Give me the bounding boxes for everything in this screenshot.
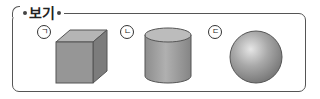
label-nieun: ㄴ — [120, 25, 134, 39]
box-title-group: 보기 — [20, 3, 64, 23]
label-digeut: ㄷ — [208, 25, 222, 39]
box-title: 보기 — [27, 4, 57, 22]
sphere-shape — [228, 29, 284, 85]
cylinder-shape — [143, 26, 193, 86]
title-right-dot — [57, 11, 61, 15]
cube-shape — [54, 28, 110, 86]
label-giyeok: ㄱ — [37, 25, 51, 39]
